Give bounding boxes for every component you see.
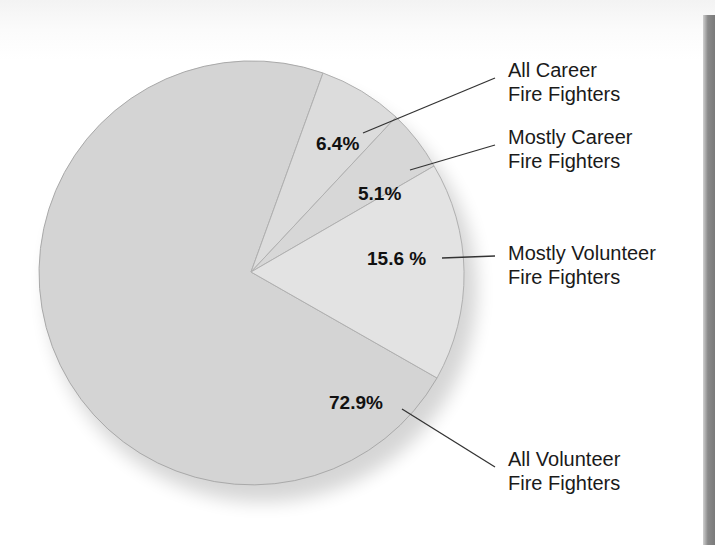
leader-line-all-volunteer	[402, 409, 495, 467]
pct-all-volunteer: 72.9%	[329, 393, 383, 412]
pct-mostly-career: 5.1%	[358, 184, 401, 203]
pct-mostly-volunteer: 15.6 %	[367, 249, 426, 268]
label-mostly-career: Mostly Career Fire Fighters	[508, 125, 632, 173]
label-line-1: Mostly Career	[508, 125, 632, 149]
pct-all-career: 6.4%	[316, 134, 359, 153]
label-all-volunteer: All Volunteer Fire Fighters	[508, 447, 620, 495]
label-line-2: Fire Fighters	[508, 471, 620, 495]
label-line-2: Fire Fighters	[508, 82, 620, 106]
label-line-2: Fire Fighters	[508, 265, 656, 289]
label-mostly-volunteer: Mostly Volunteer Fire Fighters	[508, 241, 656, 289]
label-line-1: All Career	[508, 58, 620, 82]
label-line-1: Mostly Volunteer	[508, 241, 656, 265]
label-line-2: Fire Fighters	[508, 149, 632, 173]
label-all-career: All Career Fire Fighters	[508, 58, 620, 106]
label-line-1: All Volunteer	[508, 447, 620, 471]
